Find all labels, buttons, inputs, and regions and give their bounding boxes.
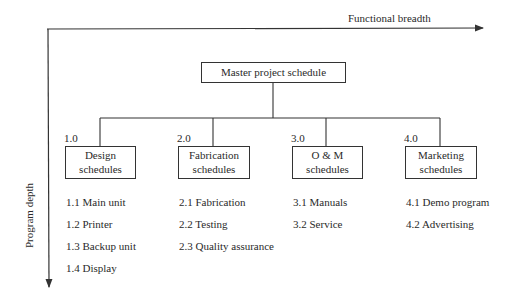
list-item: 1.4 Display: [66, 263, 117, 274]
program-depth-axis: [48, 29, 49, 287]
box-title-line: Fabrication: [189, 149, 239, 163]
list-item: 2.1 Fabrication: [179, 197, 246, 208]
box-title-line: Design: [85, 149, 116, 163]
functional-breadth-axis: [47, 28, 483, 29]
list-item: 1.1 Main unit: [66, 197, 126, 208]
list-item: 3.2 Service: [293, 219, 342, 230]
fabrication-schedules-box: Fabrication schedules: [178, 146, 250, 179]
list-item: 2.3 Quality assurance: [179, 241, 274, 252]
functional-breadth-label: Functional breadth: [348, 13, 431, 24]
box-title-line: schedules: [79, 163, 122, 177]
marketing-schedules-box: Marketing schedules: [405, 146, 477, 179]
list-item: 1.2 Printer: [66, 219, 112, 230]
list-item: 4.2 Advertising: [406, 219, 474, 230]
master-schedule-label: Master project schedule: [221, 66, 326, 80]
list-item: 2.2 Testing: [179, 219, 228, 230]
branch-number: 1.0: [64, 133, 78, 144]
branch-number: 3.0: [291, 133, 305, 144]
schedule-hierarchy-diagram: Functional breadth Program depth Master …: [0, 0, 515, 289]
box-title-line: Marketing: [418, 149, 464, 163]
box-title-line: O & M: [312, 149, 344, 163]
master-schedule-box: Master project schedule: [201, 62, 346, 83]
branch-number: 2.0: [177, 133, 191, 144]
box-title-line: schedules: [193, 163, 236, 177]
om-schedules-box: O & M schedules: [292, 146, 363, 179]
list-item: 4.1 Demo program: [406, 197, 489, 208]
box-title-line: schedules: [306, 163, 349, 177]
list-item: 1.3 Backup unit: [66, 241, 136, 252]
program-depth-label: Program depth: [24, 183, 35, 248]
branch-number: 4.0: [404, 133, 418, 144]
list-item: 3.1 Manuals: [293, 197, 347, 208]
design-schedules-box: Design schedules: [65, 146, 136, 179]
box-title-line: schedules: [420, 163, 463, 177]
